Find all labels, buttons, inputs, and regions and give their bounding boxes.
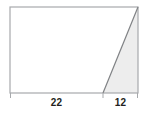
dimension-label-base-right: 12 xyxy=(103,97,138,109)
dimension-label-base-left: 22 xyxy=(10,97,103,109)
geometry-figure: 22 12 xyxy=(0,0,149,118)
